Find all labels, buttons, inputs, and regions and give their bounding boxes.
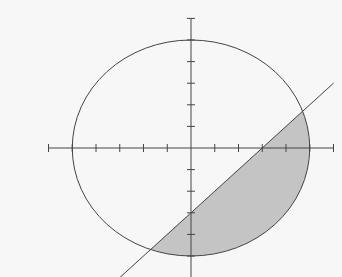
diagram-figure [0, 0, 342, 277]
axes [49, 18, 334, 277]
coordinate-plane [0, 0, 342, 277]
shaded-segment [151, 111, 310, 256]
shaded-region [151, 111, 310, 256]
